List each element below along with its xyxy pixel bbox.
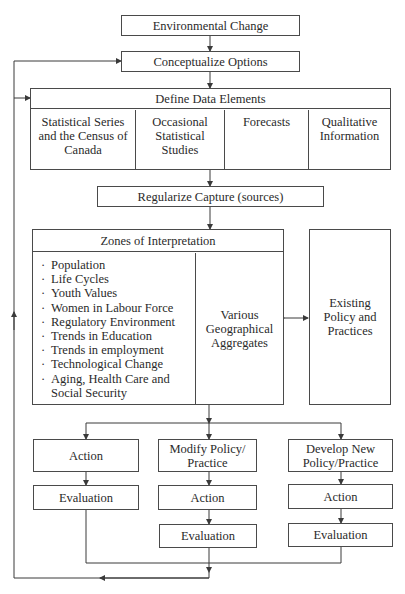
zone-item: Regulatory Environment: [41, 315, 175, 329]
branch-action-label: Action: [69, 449, 103, 463]
action-label: Action: [190, 491, 224, 505]
zone-item: Trends in Education: [41, 329, 175, 343]
zone-item: Life Cycles: [41, 272, 175, 286]
modify-policy-box: Modify Policy/ Practice: [158, 439, 257, 472]
environmental-change-label: Environmental Change: [153, 19, 269, 33]
zone-item: Population: [41, 258, 175, 272]
existing-policy-label: Existing Policy and Practices: [316, 296, 384, 338]
define-data-elements-box: Define Data Elements Statistical Series …: [30, 88, 391, 170]
branch-action-evaluation-box: Evaluation: [33, 485, 139, 510]
develop-evaluation-box: Evaluation: [288, 523, 393, 547]
evaluation-label: Evaluation: [313, 528, 367, 542]
geographical-aggregates-cell: Various Geographical Aggregates: [196, 253, 283, 404]
modify-action-box: Action: [158, 485, 257, 510]
develop-action-box: Action: [288, 484, 393, 509]
regularize-capture-label: Regularize Capture (sources): [138, 190, 284, 204]
data-column-forecasts: Forecasts: [225, 110, 309, 169]
branch-action-box: Action: [33, 439, 139, 472]
evaluation-label: Evaluation: [181, 529, 235, 543]
conceptualize-options-label: Conceptualize Options: [153, 55, 267, 69]
develop-policy-box: Develop New Policy/Practice: [288, 439, 393, 472]
data-column-occasional-studies: Occasional Statistical Studies: [136, 110, 225, 169]
zone-item: Women in Labour Force: [41, 301, 175, 315]
zone-item: Trends in employment: [41, 343, 175, 357]
existing-policy-box: Existing Policy and Practices: [309, 229, 391, 405]
environmental-change-box: Environmental Change: [121, 15, 300, 36]
evaluation-label: Evaluation: [59, 491, 113, 505]
develop-policy-label: Develop New Policy/Practice: [292, 442, 389, 470]
data-column-qualitative-information: Qualitative Information: [309, 110, 390, 169]
modify-policy-label: Modify Policy/ Practice: [163, 442, 252, 470]
action-label: Action: [323, 490, 357, 504]
define-data-elements-title: Define Data Elements: [31, 89, 390, 109]
zones-of-interpretation-box: Zones of Interpretation Population Life …: [32, 229, 284, 405]
zones-factor-list: Population Life Cycles Youth Values Wome…: [33, 253, 196, 404]
zone-item: Aging, Health Care and Social Security: [41, 372, 171, 400]
data-column-statistical-series: Statistical Series and the Census of Can…: [31, 110, 136, 169]
zone-item: Technological Change: [41, 357, 175, 371]
zone-item: Youth Values: [41, 286, 175, 300]
modify-evaluation-box: Evaluation: [159, 524, 257, 548]
regularize-capture-box: Regularize Capture (sources): [97, 186, 324, 207]
zones-of-interpretation-title: Zones of Interpretation: [33, 230, 283, 252]
conceptualize-options-box: Conceptualize Options: [121, 51, 300, 72]
